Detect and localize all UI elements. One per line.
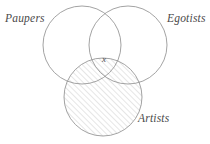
set-label-egotists: Egotists bbox=[167, 13, 206, 25]
venn-diagram-figure: Paupers Egotists Artists x bbox=[0, 0, 210, 144]
triple-intersection-marker: x bbox=[102, 55, 106, 64]
set-label-paupers: Paupers bbox=[5, 13, 45, 25]
set-label-artists: Artists bbox=[138, 113, 169, 125]
